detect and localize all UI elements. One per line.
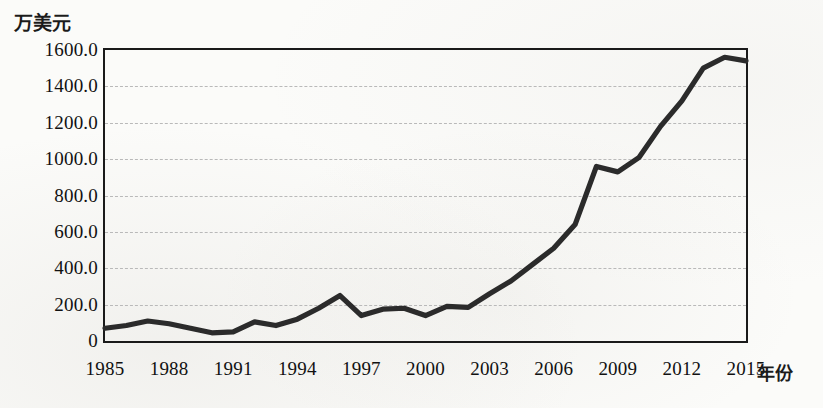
line-series bbox=[105, 50, 746, 341]
x-tick-label: 2012 bbox=[647, 358, 717, 380]
x-tick-label: 1994 bbox=[262, 358, 332, 380]
y-tick-label: 800.0 bbox=[2, 185, 98, 207]
y-tick-label: 1000.0 bbox=[2, 148, 98, 170]
x-tick-label: 1988 bbox=[134, 358, 204, 380]
y-tick-label: 0 bbox=[2, 330, 98, 352]
x-tick-label: 2006 bbox=[519, 358, 589, 380]
series-polyline bbox=[105, 57, 746, 333]
plot-area bbox=[103, 48, 748, 343]
y-tick-label: 1200.0 bbox=[2, 112, 98, 134]
y-tick-label: 1400.0 bbox=[2, 75, 98, 97]
y-tick-label: 200.0 bbox=[2, 294, 98, 316]
x-axis-unit-label: 年份 bbox=[757, 359, 793, 385]
y-tick-label: 1600.0 bbox=[2, 39, 98, 61]
x-tick-label: 1997 bbox=[326, 358, 396, 380]
x-tick-label: 1991 bbox=[198, 358, 268, 380]
x-tick-label: 2003 bbox=[455, 358, 525, 380]
y-tick-label: 400.0 bbox=[2, 257, 98, 279]
x-tick-label: 2000 bbox=[391, 358, 461, 380]
x-tick-label: 2009 bbox=[583, 358, 653, 380]
y-tick-label: 600.0 bbox=[2, 221, 98, 243]
y-axis-tick-labels: 1600.01400.01200.01000.0800.0600.0400.02… bbox=[0, 0, 98, 408]
chart-figure: 万美元 1600.01400.01200.01000.0800.0600.040… bbox=[0, 0, 823, 408]
